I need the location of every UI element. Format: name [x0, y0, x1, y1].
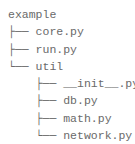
tree-branch: └──	[8, 129, 63, 142]
file-name: db.py	[63, 94, 98, 107]
tree-branch: ├──	[8, 77, 63, 90]
tree-item-core: ├── core.py	[8, 23, 135, 40]
tree-branch: └──	[8, 60, 36, 73]
tree-item-run: ├── run.py	[8, 41, 135, 58]
tree-item-math: ├── math.py	[8, 110, 135, 127]
folder-name: util	[36, 60, 64, 73]
tree-item-util: └── util	[8, 58, 135, 75]
directory-tree: example ├── core.py ├── run.py └── util …	[8, 6, 135, 144]
tree-branch: ├──	[8, 25, 36, 38]
file-name: network.py	[63, 129, 132, 142]
file-name: run.py	[36, 43, 77, 56]
tree-branch: ├──	[8, 43, 36, 56]
tree-root: example	[8, 6, 135, 23]
tree-branch: ├──	[8, 94, 63, 107]
tree-branch: ├──	[8, 112, 63, 125]
file-name: math.py	[63, 112, 111, 125]
file-name: __init__.py	[63, 77, 135, 90]
tree-item-db: ├── db.py	[8, 92, 135, 109]
file-name: core.py	[36, 25, 84, 38]
tree-item-init: ├── __init__.py	[8, 75, 135, 92]
tree-item-network: └── network.py	[8, 127, 135, 144]
